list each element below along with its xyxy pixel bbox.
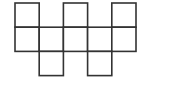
square-r2-c1	[39, 51, 63, 75]
square-r2-c3	[88, 51, 112, 75]
square-r0-c2	[63, 3, 87, 27]
square-r1-c3	[88, 27, 112, 51]
squares-net-diagram	[0, 0, 177, 86]
square-r1-c1	[39, 27, 63, 51]
square-r1-c4	[112, 27, 136, 51]
square-r1-c0	[15, 27, 39, 51]
square-r0-c4	[112, 3, 136, 27]
square-r1-c2	[63, 27, 87, 51]
square-r0-c0	[15, 3, 39, 27]
